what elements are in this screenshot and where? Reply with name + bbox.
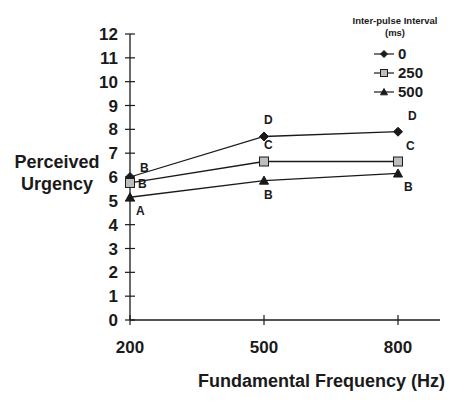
legend-label: 500 bbox=[398, 83, 423, 100]
significance-label: D bbox=[408, 109, 417, 123]
significance-label: D bbox=[264, 113, 273, 127]
legend-marker-square bbox=[381, 70, 388, 77]
y-tick-label: 5 bbox=[109, 192, 118, 211]
significance-label: C bbox=[264, 138, 273, 152]
series-layer: BDDBCCABB bbox=[126, 109, 418, 219]
legend-title: (ms) bbox=[385, 27, 405, 38]
significance-label: C bbox=[406, 139, 415, 153]
y-tick-label: 9 bbox=[109, 97, 118, 116]
y-tick-label: 3 bbox=[109, 240, 118, 259]
x-axis-title: Fundamental Frequency (Hz) bbox=[198, 371, 445, 391]
x-tick-label: 200 bbox=[116, 338, 144, 357]
legend: Inter-pulse Interval(ms)0250500 bbox=[353, 15, 438, 100]
y-tick-label: 0 bbox=[109, 311, 118, 330]
data-point-diamond bbox=[394, 127, 403, 136]
y-tick-label: 10 bbox=[99, 73, 118, 92]
y-axis-title-line1: Perceived bbox=[14, 152, 99, 172]
legend-item-250: 250 bbox=[374, 64, 423, 81]
data-point-square bbox=[394, 157, 403, 166]
legend-marker-diamond bbox=[381, 51, 388, 58]
legend-item-500: 500 bbox=[374, 83, 423, 100]
significance-label: A bbox=[136, 204, 145, 218]
y-tick-label: 2 bbox=[109, 263, 118, 282]
y-tick-label: 4 bbox=[109, 216, 119, 235]
y-tick-label: 8 bbox=[109, 120, 118, 139]
legend-title: Inter-pulse Interval bbox=[353, 15, 438, 26]
x-tick-label: 500 bbox=[250, 338, 278, 357]
x-axis: 200500800 bbox=[116, 315, 440, 357]
y-axis-title-line2: Urgency bbox=[21, 174, 93, 194]
x-tick-label: 800 bbox=[384, 338, 412, 357]
significance-label: B bbox=[140, 161, 149, 175]
y-tick-label: 1 bbox=[109, 287, 118, 306]
significance-label: B bbox=[138, 177, 147, 191]
legend-label: 0 bbox=[398, 45, 406, 62]
legend-label: 250 bbox=[398, 64, 423, 81]
series-250: BCC bbox=[126, 138, 416, 191]
chart: 0123456789101112 200500800 Perceived Urg… bbox=[0, 0, 466, 405]
y-tick-label: 11 bbox=[100, 49, 118, 68]
significance-label: B bbox=[404, 180, 413, 194]
data-point-square bbox=[260, 157, 269, 166]
legend-item-0: 0 bbox=[374, 45, 406, 62]
data-point-square bbox=[126, 178, 135, 187]
significance-label: B bbox=[264, 188, 273, 202]
y-tick-label: 7 bbox=[109, 144, 118, 163]
y-tick-label: 6 bbox=[109, 168, 118, 187]
y-tick-label: 12 bbox=[99, 25, 118, 44]
